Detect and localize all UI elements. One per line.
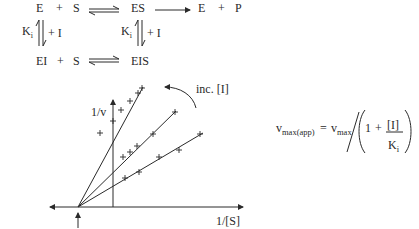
equation-lhs: vmax(app) (276, 121, 315, 136)
plot-line-high-inhibitor (78, 87, 143, 207)
plot-line-low-inhibitor (78, 133, 203, 207)
equilibrium-arrow-icon (89, 6, 119, 15)
vertical-equilibrium-arrow-icon (135, 20, 145, 46)
plot-line-medium-inhibitor (78, 111, 176, 207)
y-axis-label: 1/v (91, 106, 106, 118)
equation-plus: + (375, 121, 382, 136)
equation-one: 1 (365, 121, 371, 136)
diagram-graphics (0, 0, 419, 229)
vertical-equilibrium-arrow-icon (36, 20, 46, 46)
increasing-inhibitor-label: inc. [I] (196, 83, 229, 95)
equation-numerator: [I] (387, 118, 399, 133)
x-axis-label: 1/[S] (216, 215, 240, 227)
equilibrium-arrow-icon (89, 56, 119, 65)
equation-rhs: vmax (331, 121, 352, 136)
curved-arrow-icon (165, 87, 196, 108)
equation-denominator: Ki (388, 138, 399, 153)
equation-equals: = (320, 121, 327, 136)
right-paren (405, 110, 411, 153)
